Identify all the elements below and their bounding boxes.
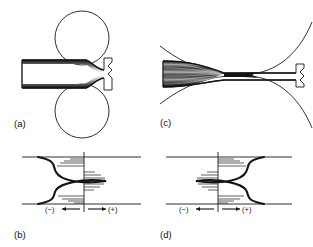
lower-roll-circle-a (55, 84, 109, 138)
positive-arrow-b (102, 207, 106, 211)
top-skin-layer-a (22, 60, 104, 73)
negative-arrow-d (196, 207, 200, 211)
panel-b-residual-stress-plot: (−) (+) (b) (14, 152, 141, 240)
deformation-wedge-c (163, 61, 224, 87)
negative-sign-label-d: (−) (179, 205, 189, 214)
stress-curve-b (38, 157, 106, 204)
panel-label-d: (d) (160, 229, 172, 240)
positive-sign-label-d: (+) (242, 205, 252, 214)
sign-axis-d: (−) (+) (179, 205, 252, 214)
panel-d-residual-stress-plot: (−) (+) (d) (160, 152, 292, 240)
positive-arrow-d (236, 207, 240, 211)
panel-label-b: (b) (14, 229, 26, 240)
upper-roll-circle-a (55, 11, 109, 65)
negative-arrow-b (62, 207, 66, 211)
sign-axis-b: (−) (+) (45, 205, 118, 214)
positive-sign-label-b: (+) (108, 205, 118, 214)
panel-c-rolling-schematic: (c) (160, 22, 312, 128)
negative-sign-label-b: (−) (45, 205, 55, 214)
panel-label-c: (c) (160, 117, 171, 128)
stress-curve-d (196, 157, 264, 204)
figure-svg: (a) (c) (0, 0, 313, 247)
panel-label-a: (a) (14, 118, 26, 129)
sheet-through-shading-c (163, 61, 224, 87)
figure-container: (a) (c) (0, 0, 313, 247)
panel-a-rolling-schematic: (a) (14, 11, 112, 138)
